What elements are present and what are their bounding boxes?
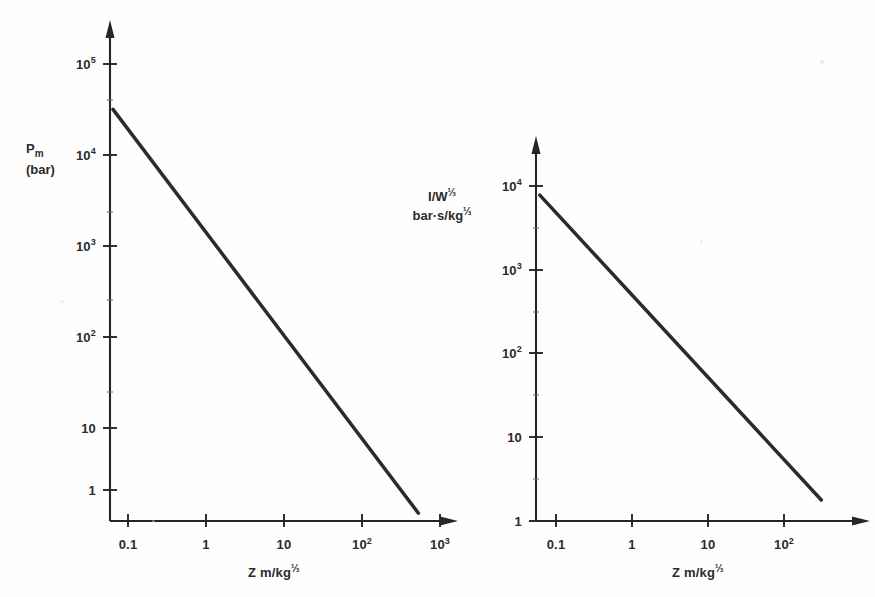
right-y-axis-title: I/W⅓ bar·s/kg⅓ bbox=[372, 188, 512, 226]
left-ytick-label-1e4: 104 bbox=[58, 148, 96, 163]
right-ytick-label-1: 1 bbox=[484, 514, 522, 529]
left-y-axis-arrowhead bbox=[106, 20, 115, 38]
right-xtick-label-1: 1 bbox=[628, 537, 635, 552]
left-data-line bbox=[113, 109, 418, 513]
left-ytick-label-1e2: 102 bbox=[58, 330, 96, 345]
figure-root: 105 104 103 102 10 1 0.1 1 10 102 103 Pm… bbox=[0, 0, 875, 597]
left-y-axis-title-units: (bar) bbox=[26, 161, 55, 180]
right-x-axis-title: Z m/kg⅓ bbox=[672, 565, 724, 580]
left-ytick-label-1e3: 103 bbox=[58, 239, 96, 254]
left-y-axis-title: Pm (bar) bbox=[26, 140, 55, 180]
left-ytick-label-10: 10 bbox=[58, 421, 96, 436]
right-data-line bbox=[540, 195, 822, 500]
right-xtick-label-10: 10 bbox=[701, 537, 716, 552]
left-xtick-label-1: 1 bbox=[202, 537, 209, 552]
left-xtick-label-0p1: 0.1 bbox=[119, 537, 138, 552]
right-xtick-label-1e2: 102 bbox=[774, 537, 794, 552]
right-y-axis-arrowhead bbox=[532, 136, 541, 154]
chart-right-panel: 104 103 102 10 1 0.1 1 10 102 I/W⅓ bar·s… bbox=[400, 0, 875, 597]
left-y-axis-title-symbol: Pm bbox=[26, 140, 55, 161]
right-ytick-label-1e3: 103 bbox=[484, 263, 522, 278]
right-ytick-label-1e2: 102 bbox=[484, 346, 522, 361]
left-x-axis-title: Z m/kg⅓ bbox=[248, 565, 300, 580]
right-y-axis-title-line1: I/W⅓ bbox=[372, 188, 512, 207]
right-y-axis-title-line2: bar·s/kg⅓ bbox=[372, 207, 512, 226]
right-x-axis-arrowhead bbox=[852, 517, 870, 526]
scan-speck bbox=[152, 520, 155, 523]
scan-speck bbox=[820, 60, 824, 64]
right-xtick-label-0p1: 0.1 bbox=[547, 537, 566, 552]
right-ytick-label-10: 10 bbox=[484, 430, 522, 445]
scan-speck bbox=[60, 300, 64, 303]
left-ytick-label-1: 1 bbox=[58, 483, 96, 498]
right-plot-canvas bbox=[400, 0, 875, 597]
scan-speck bbox=[700, 240, 703, 243]
left-xtick-label-1e2: 102 bbox=[352, 537, 372, 552]
left-ytick-label-1e5: 105 bbox=[58, 57, 96, 72]
left-xtick-label-10: 10 bbox=[277, 537, 292, 552]
